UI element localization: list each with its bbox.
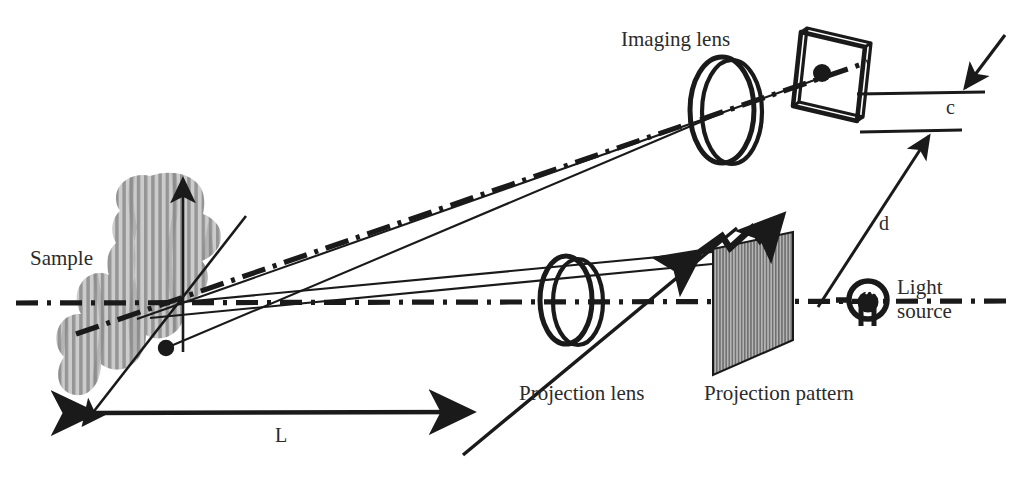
sample-label: Sample (30, 247, 93, 271)
optical-diagram-svg (0, 0, 1030, 482)
c-arrow-upper (965, 35, 1005, 88)
lamp-icon (836, 281, 887, 326)
dimension-label-c: c (946, 96, 955, 118)
light-source-label-line1: Light (897, 276, 943, 300)
imaging-lens-label: Imaging lens (621, 28, 730, 52)
L-dimension (92, 412, 470, 413)
light-source-label-line2: source (897, 300, 952, 324)
figure-canvas: Sample Imaging lens Projection lens Proj… (0, 0, 1030, 482)
c-line-lower (860, 130, 962, 132)
dimension-label-d: d (879, 212, 889, 234)
projection-pattern (713, 232, 793, 375)
projection-pattern-label: Projection pattern (704, 382, 854, 406)
c-line-upper (857, 92, 985, 94)
c-dimension (857, 35, 1005, 132)
projection-lens-label: Projection lens (519, 382, 644, 406)
projection-ray-bundle (150, 228, 737, 455)
image-point-marker (813, 64, 831, 82)
dimension-label-L: L (275, 424, 287, 446)
